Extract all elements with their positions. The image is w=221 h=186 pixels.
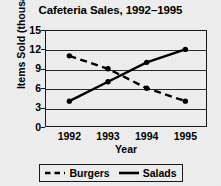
x-axis-tick-labels: 1992199319941995 (45, 130, 207, 144)
y-axis-tick-label: 12 (24, 44, 41, 55)
data-point-salads (105, 79, 110, 84)
y-axis-tick-label: 0 (24, 122, 41, 133)
legend-label: Salads (143, 167, 177, 179)
series-line-burgers (69, 56, 185, 101)
y-axis-tick-labels: 03691215 (24, 30, 41, 127)
y-axis-tick-mark (41, 108, 45, 109)
y-axis-tick-mark (41, 88, 45, 89)
y-axis-tick-mark (41, 49, 45, 50)
series-line-salads (69, 49, 185, 101)
data-point-salads (67, 98, 72, 103)
chart-legend: BurgersSalads (39, 164, 183, 182)
data-point-burgers (67, 53, 72, 58)
y-axis-tick-label: 9 (24, 63, 41, 74)
line-chart-figure: Cafeteria Sales, 1992–1995 Items Sold (t… (0, 0, 221, 186)
x-axis-title: Year (45, 143, 207, 156)
legend-swatch-dashed (45, 168, 65, 178)
legend-label: Burgers (69, 167, 109, 179)
data-point-burgers (105, 66, 110, 71)
series-layer (45, 30, 207, 127)
legend-entry-salads: Salads (119, 167, 177, 179)
y-axis-tick-mark (41, 69, 45, 70)
data-point-salads (144, 60, 149, 65)
y-axis-tick-mark (41, 30, 45, 31)
legend-entry-burgers: Burgers (45, 167, 109, 179)
y-axis-tick-label: 3 (24, 102, 41, 113)
x-axis-tick-label: 1994 (127, 130, 167, 143)
data-point-burgers (183, 98, 188, 103)
y-axis-tick-label: 15 (24, 25, 41, 36)
y-axis-tick-mark (41, 127, 45, 128)
chart-title: Cafeteria Sales, 1992–1995 (0, 3, 221, 17)
legend-swatch-solid (119, 168, 139, 178)
y-axis-tick-label: 6 (24, 83, 41, 94)
data-point-burgers (144, 86, 149, 91)
x-axis-tick-label: 1993 (88, 130, 128, 143)
x-axis-tick-label: 1995 (165, 130, 205, 143)
x-axis-tick-label: 1992 (49, 130, 89, 143)
data-point-salads (183, 47, 188, 52)
